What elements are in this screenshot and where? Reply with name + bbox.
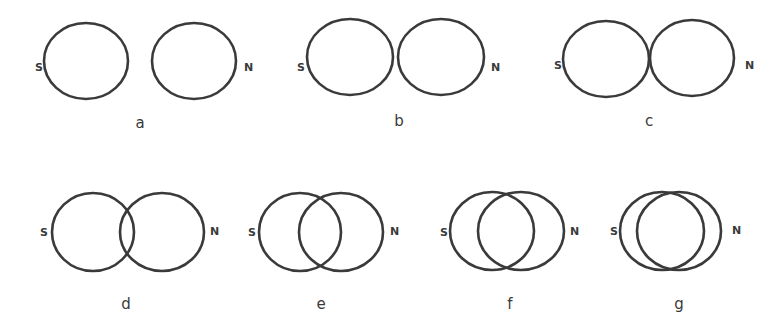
left-loop bbox=[563, 21, 649, 97]
right-loop bbox=[120, 193, 204, 271]
north-pole-label: N bbox=[390, 225, 399, 238]
panel-c: SNc bbox=[554, 20, 754, 130]
south-pole-label: S bbox=[40, 226, 48, 239]
right-loop bbox=[398, 19, 484, 95]
south-pole-label: S bbox=[248, 226, 256, 239]
loop-diagram: SNaSNbSNcSNdSNeSNfSNg bbox=[0, 0, 769, 325]
panel-caption: g bbox=[674, 295, 684, 313]
left-loop bbox=[52, 193, 134, 271]
north-pole-label: N bbox=[491, 61, 500, 74]
south-pole-label: S bbox=[35, 61, 43, 74]
south-pole-label: S bbox=[554, 59, 562, 72]
panel-g: SNg bbox=[610, 192, 741, 313]
panel-caption: d bbox=[121, 295, 131, 313]
panel-d: SNd bbox=[40, 193, 219, 313]
panel-e: SNe bbox=[248, 193, 399, 313]
left-loop bbox=[44, 23, 128, 99]
panel-f: SNf bbox=[440, 192, 579, 313]
panel-caption: c bbox=[645, 112, 653, 130]
panel-caption: b bbox=[394, 112, 404, 130]
left-loop bbox=[620, 192, 704, 270]
panel-caption: f bbox=[507, 295, 513, 313]
panel-b: SNb bbox=[297, 19, 500, 130]
right-loop bbox=[637, 192, 721, 270]
south-pole-label: S bbox=[610, 225, 618, 238]
panel-caption: e bbox=[316, 295, 325, 313]
right-loop bbox=[650, 20, 734, 96]
panel-a: SNa bbox=[35, 23, 253, 132]
right-loop bbox=[152, 23, 236, 99]
south-pole-label: S bbox=[297, 61, 305, 74]
left-loop bbox=[307, 19, 393, 95]
north-pole-label: N bbox=[745, 59, 754, 72]
panel-caption: a bbox=[135, 114, 144, 132]
north-pole-label: N bbox=[210, 225, 219, 238]
north-pole-label: N bbox=[244, 61, 253, 74]
north-pole-label: N bbox=[732, 224, 741, 237]
north-pole-label: N bbox=[570, 225, 579, 238]
south-pole-label: S bbox=[440, 226, 448, 239]
